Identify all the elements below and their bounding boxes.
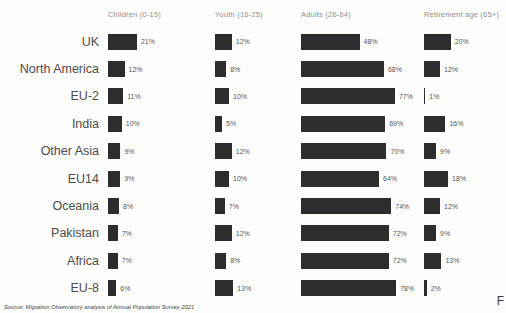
bar-value: 11%	[127, 93, 141, 100]
bar-value: 2%	[431, 285, 441, 292]
bar	[215, 280, 233, 296]
bar-cell: 69%	[301, 110, 424, 137]
bar-value: 7%	[229, 203, 239, 210]
bar-value: 48%	[364, 38, 378, 45]
bar-cell: 48%	[301, 28, 424, 55]
bar-value: 9%	[124, 148, 134, 155]
column-header-adults: Adults (26-64)	[301, 9, 424, 28]
bar	[108, 116, 122, 132]
row-label: UK	[0, 28, 108, 55]
bar-value: 10%	[126, 120, 140, 127]
bar-value: 13%	[237, 285, 251, 292]
bar	[215, 34, 232, 50]
bar-cell: 2%	[424, 275, 506, 302]
bar-cell: 7%	[108, 247, 215, 274]
bar-value: 12%	[444, 203, 458, 210]
column-header-retirement: Retirement age (65+)	[424, 9, 506, 28]
bar-cell: 9%	[424, 220, 506, 247]
bar-cell: 74%	[301, 192, 424, 219]
bar-value: 8%	[230, 66, 240, 73]
bar-value: 20%	[455, 38, 469, 45]
bar-cell: 12%	[424, 55, 506, 82]
bar	[424, 225, 436, 241]
bar-value: 12%	[129, 66, 143, 73]
bar-value: 21%	[141, 38, 155, 45]
bar-value: 12%	[236, 230, 250, 237]
bar-value: 12%	[444, 66, 458, 73]
bar-value: 1%	[429, 93, 439, 100]
row-label: Other Asia	[0, 138, 108, 165]
bar-cell: 12%	[424, 192, 506, 219]
bar-cell: 1%	[424, 83, 506, 110]
bar-value: 8%	[123, 203, 133, 210]
bar	[424, 171, 448, 187]
page-marker: F	[497, 294, 504, 308]
bar-cell: 12%	[215, 220, 301, 247]
bar-value: 74%	[395, 203, 409, 210]
bar-value: 16%	[449, 120, 463, 127]
bar	[215, 198, 225, 214]
bar	[108, 198, 119, 214]
bar	[108, 61, 125, 77]
bar-cell: 18%	[424, 165, 506, 192]
bar-cell: 5%	[215, 110, 301, 137]
bar	[215, 143, 232, 159]
row-label: EU-8	[0, 275, 108, 302]
bar-value: 13%	[445, 257, 459, 264]
bar	[301, 198, 391, 214]
bar-cell: 9%	[108, 138, 215, 165]
bar-cell: 13%	[215, 275, 301, 302]
column-header-children: Children (0-15)	[108, 9, 215, 28]
bar-value: 6%	[120, 285, 130, 292]
bar-value: 18%	[452, 175, 466, 182]
bar-cell: 21%	[108, 28, 215, 55]
row-label: Oceania	[0, 192, 108, 219]
bar-value: 69%	[389, 120, 403, 127]
bar	[424, 253, 441, 269]
bar	[215, 253, 226, 269]
bar-cell: 20%	[424, 28, 506, 55]
bar	[108, 88, 123, 104]
bar-value: 72%	[393, 230, 407, 237]
bar-cell: 70%	[301, 138, 424, 165]
bar-value: 12%	[236, 148, 250, 155]
column-header-youth: Youth (16-25)	[215, 9, 301, 28]
bar	[215, 225, 232, 241]
bar-cell: 13%	[424, 247, 506, 274]
row-label: India	[0, 110, 108, 137]
bar	[301, 61, 384, 77]
bar	[424, 143, 436, 159]
bar-value: 10%	[233, 93, 247, 100]
chart-page: Children (0-15) Youth (16-25) Adults (26…	[0, 0, 506, 313]
bar	[301, 34, 360, 50]
bar-value: 10%	[233, 175, 247, 182]
bar-cell: 77%	[301, 83, 424, 110]
bar-cell: 12%	[215, 28, 301, 55]
bar-cell: 12%	[108, 55, 215, 82]
bar-cell: 64%	[301, 165, 424, 192]
bar	[424, 116, 445, 132]
bar-value: 8%	[230, 257, 240, 264]
row-label: North America	[0, 55, 108, 82]
age-profile-chart: Children (0-15) Youth (16-25) Adults (26…	[0, 0, 506, 302]
bar	[108, 280, 116, 296]
bar	[215, 61, 226, 77]
row-label: EU14	[0, 165, 108, 192]
bar-value: 78%	[400, 285, 414, 292]
bar-cell: 7%	[215, 192, 301, 219]
bar-value: 5%	[226, 120, 236, 127]
bar	[215, 171, 229, 187]
bar-cell: 10%	[108, 110, 215, 137]
bar	[301, 171, 379, 187]
bar-cell: 68%	[301, 55, 424, 82]
bar	[301, 88, 395, 104]
bar-value: 72%	[393, 257, 407, 264]
bar-value: 9%	[124, 175, 134, 182]
bar	[301, 225, 389, 241]
bar	[424, 88, 425, 104]
bar-value: 7%	[122, 230, 132, 237]
bar	[301, 280, 396, 296]
bar	[108, 34, 137, 50]
bar-cell: 9%	[424, 138, 506, 165]
bar-value: 70%	[390, 148, 404, 155]
